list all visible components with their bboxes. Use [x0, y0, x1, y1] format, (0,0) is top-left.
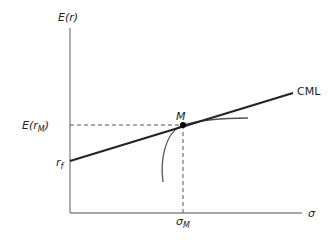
cml-diagram: E(r) σ M CML E(rM) rf σM — [0, 0, 336, 240]
point-m-label: M — [176, 110, 186, 123]
market-sigma-tick-label: σM — [176, 215, 190, 230]
cml-label: CML — [297, 85, 321, 98]
efficient-frontier-curve — [162, 118, 248, 182]
risk-free-tick-label: rf — [56, 156, 65, 171]
y-axis-label: E(r) — [58, 11, 78, 24]
market-return-tick-label: E(rM) — [22, 119, 49, 134]
x-axis-label: σ — [308, 207, 316, 220]
